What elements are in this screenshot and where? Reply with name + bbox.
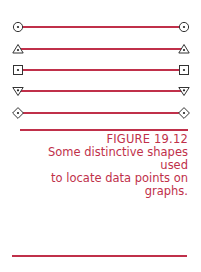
connector-line — [20, 26, 182, 28]
diamond-dot-icon — [178, 107, 190, 119]
circle-dot-icon — [12, 21, 24, 33]
triangle-down-dot-icon — [178, 85, 190, 97]
marker-row-triangle-down — [12, 85, 190, 97]
connector-line — [20, 48, 182, 50]
marker-row-triangle-up — [12, 43, 190, 55]
triangle-up-dot-icon — [178, 43, 190, 55]
square-dot-icon — [12, 64, 24, 76]
connector-line — [20, 112, 182, 114]
circle-dot-icon — [178, 21, 190, 33]
connector-line — [20, 90, 182, 92]
diamond-dot-icon — [12, 107, 24, 119]
connector-line — [20, 69, 182, 71]
triangle-down-dot-icon — [12, 85, 24, 97]
marker-row-square — [12, 64, 190, 76]
caption-line-1: Some distinctive shapes used — [18, 146, 188, 172]
triangle-up-dot-icon — [12, 43, 24, 55]
marker-row-diamond — [12, 107, 190, 119]
caption-line-3: graphs. — [18, 185, 188, 198]
caption-top-rule — [20, 129, 188, 131]
caption-bottom-rule — [12, 255, 187, 257]
square-dot-icon — [178, 64, 190, 76]
figure-caption: FIGURE 19.12 Some distinctive shapes use… — [18, 133, 188, 198]
marker-row-circle — [12, 21, 190, 33]
